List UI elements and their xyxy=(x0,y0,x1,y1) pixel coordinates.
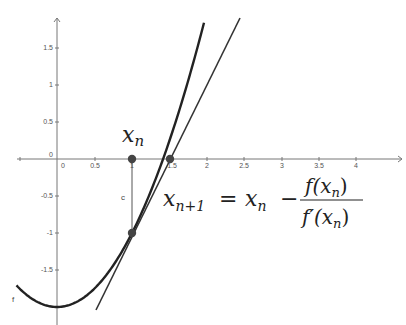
point-f-xn[interactable] xyxy=(128,229,136,237)
function-label: f xyxy=(12,295,15,304)
x-tick-label: 0 xyxy=(61,162,65,169)
y-tick-label: 0.5 xyxy=(43,118,53,125)
x-tick-label: 4 xyxy=(354,162,358,169)
tangent-line xyxy=(96,18,240,310)
x-tick-label: 0.5 xyxy=(90,162,100,169)
newton-formula: xn+1 = xn − f(xn) f′(xn) xyxy=(163,174,363,231)
xn-label: xn xyxy=(122,122,144,150)
x-tick-label: 2.5 xyxy=(239,162,249,169)
y-tick-label: -1 xyxy=(47,229,53,236)
svg-text:=: = xyxy=(219,186,237,211)
svg-text:xn+1: xn+1 xyxy=(163,186,205,214)
y-tick-label: -1.5 xyxy=(41,266,53,273)
segment-label: c xyxy=(121,193,125,202)
svg-text:xn: xn xyxy=(245,186,266,214)
point-xn[interactable] xyxy=(128,155,136,163)
svg-text:−: − xyxy=(280,186,298,211)
y-tick-label: -0.5 xyxy=(41,192,53,199)
point-xn1[interactable] xyxy=(166,155,174,163)
y-tick-label: 0 xyxy=(49,151,53,158)
newton-method-diagram: 0 0.5 1 1.5 2 2.5 3 3.5 4 1.5 1 0.5 0 -0… xyxy=(0,0,406,325)
svg-text:f(xn): f(xn) xyxy=(303,174,348,200)
y-tick-label: 1 xyxy=(49,81,53,88)
svg-text:f′(xn): f′(xn) xyxy=(300,205,349,231)
x-tick-label: 3.5 xyxy=(314,162,324,169)
y-tick-label: 1.5 xyxy=(43,44,53,51)
graph-canvas: 0 0.5 1 1.5 2 2.5 3 3.5 4 1.5 1 0.5 0 -0… xyxy=(0,0,406,325)
x-tick-label: 3 xyxy=(280,162,284,169)
x-tick-label: 2 xyxy=(205,162,209,169)
